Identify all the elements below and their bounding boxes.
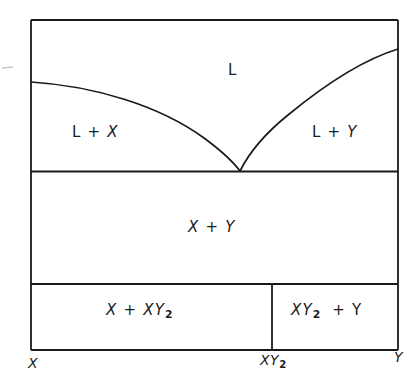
phase-diagram-canvas	[0, 0, 420, 391]
scan-artifact-mark	[2, 67, 13, 68]
right-liquidus-curve	[240, 49, 398, 171]
region-label-xy2-plus-y-plus: +	[320, 301, 352, 319]
region-label-x-plus-y-Y: Y	[225, 218, 235, 236]
axis-label-x: X	[28, 356, 38, 370]
region-label-liquid-plus-y-plus: +	[322, 123, 348, 141]
axis-label-y-text: Y	[394, 349, 403, 365]
axis-label-xy2: XY2	[260, 353, 286, 370]
region-label-liquid-plus-y: L + Y	[312, 125, 358, 140]
region-label-liquid-plus-x-plus: +	[82, 123, 108, 141]
axis-label-xy2-subscript: 2	[279, 359, 286, 370]
region-label-liquid-text: L	[228, 61, 238, 79]
left-liquidus-curve	[31, 82, 240, 171]
axis-label-x-text: X	[28, 355, 38, 371]
region-label-liquid-plus-y-L: L	[312, 123, 322, 141]
phase-diagram-figure: L L + X L + Y X + Y X + XY2 XY2 + Y X XY…	[0, 0, 420, 391]
region-label-xy2-plus-y: XY2 + Y	[291, 303, 362, 321]
region-label-xy2-plus-y-XY: XY	[291, 301, 313, 319]
region-label-x-plus-xy2: X + XY2	[106, 303, 173, 321]
region-label-liquid-plus-x: L + X	[72, 125, 119, 140]
region-label-liquid: L	[228, 63, 238, 78]
region-label-liquid-plus-x-L: L	[72, 123, 82, 141]
region-label-x-plus-xy2-subscript: 2	[165, 308, 173, 321]
region-label-x-plus-xy2-XY: XY	[143, 301, 165, 319]
region-label-x-plus-y-X: X	[188, 218, 199, 236]
region-label-x-plus-y: X + Y	[188, 220, 236, 235]
region-label-x-plus-xy2-X: X	[106, 301, 117, 319]
region-label-xy2-plus-y-Y: Y	[352, 301, 362, 319]
region-label-liquid-plus-y-Y: Y	[347, 123, 357, 141]
region-label-x-plus-xy2-plus: +	[117, 301, 143, 319]
axis-label-xy2-XY: XY	[260, 352, 279, 368]
axis-label-y: Y	[394, 350, 403, 364]
region-label-x-plus-y-plus: +	[199, 218, 225, 236]
region-label-liquid-plus-x-X: X	[107, 123, 118, 141]
